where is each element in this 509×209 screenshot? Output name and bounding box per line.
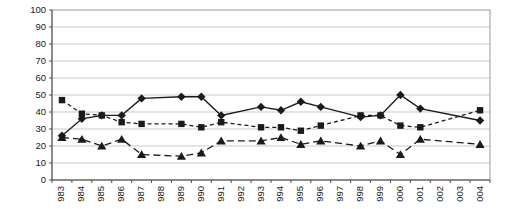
- x-axis-label: 998: [355, 186, 365, 202]
- square-marker: [99, 112, 105, 118]
- x-axis-label: 988: [156, 186, 166, 202]
- y-axis-label: 60: [6, 73, 46, 83]
- triangle-marker: [475, 140, 484, 148]
- y-axis-label: 50: [6, 90, 46, 100]
- x-axis-label: 994: [275, 186, 285, 202]
- square-marker: [278, 124, 284, 130]
- square-marker: [258, 124, 264, 130]
- square-marker: [377, 112, 383, 118]
- y-axis-label: 20: [6, 141, 46, 151]
- triangle-marker: [117, 135, 126, 143]
- triangle-marker: [376, 137, 385, 145]
- x-axis-label: 991: [216, 186, 226, 202]
- y-axis-label: 40: [6, 107, 46, 117]
- diamond-marker: [177, 93, 185, 101]
- y-axis-label: 100: [6, 5, 46, 15]
- square-marker: [79, 111, 85, 117]
- x-axis-label: 987: [136, 186, 146, 202]
- x-axis-label: 999: [375, 186, 385, 202]
- square-marker: [178, 121, 184, 127]
- plot-area: [0, 0, 509, 209]
- x-axis-label: 986: [116, 186, 126, 202]
- square-marker: [417, 124, 423, 130]
- square-marker: [118, 119, 124, 125]
- y-axis-label: 30: [6, 124, 46, 134]
- triangle-marker: [197, 149, 206, 157]
- x-axis-label: 992: [236, 186, 246, 202]
- x-axis-label: 990: [196, 186, 206, 202]
- y-axis-label: 10: [6, 158, 46, 168]
- triangle-marker: [316, 137, 325, 145]
- square-marker: [397, 122, 403, 128]
- x-axis-label: 996: [315, 186, 325, 202]
- x-axis-label: 004: [475, 186, 485, 202]
- x-axis-label: 997: [335, 186, 345, 202]
- square-marker: [477, 107, 483, 113]
- x-axis-label: 000: [395, 186, 405, 202]
- square-marker: [138, 121, 144, 127]
- triangle-marker: [276, 133, 285, 141]
- x-axis-label: 001: [415, 186, 425, 202]
- square-marker: [218, 119, 224, 125]
- square-marker: [357, 112, 363, 118]
- square-marker: [318, 122, 324, 128]
- square-marker: [59, 97, 65, 103]
- square-marker: [298, 128, 304, 134]
- diamond-marker: [317, 103, 325, 111]
- x-axis-label: 995: [295, 186, 305, 202]
- triangle-marker: [217, 137, 226, 145]
- x-axis-label: 002: [435, 186, 445, 202]
- x-axis-label: 984: [76, 186, 86, 202]
- x-axis-label: 983: [56, 186, 66, 202]
- x-axis-label: 985: [96, 186, 106, 202]
- y-axis-label: 0: [6, 175, 46, 185]
- x-axis-label: 993: [256, 186, 266, 202]
- diamond-marker: [297, 98, 305, 106]
- diamond-marker: [277, 106, 285, 114]
- x-axis-label: 989: [176, 186, 186, 202]
- diamond-marker: [476, 116, 484, 124]
- square-marker: [198, 124, 204, 130]
- y-axis-label: 80: [6, 39, 46, 49]
- diamond-marker: [257, 103, 265, 111]
- y-axis-label: 70: [6, 56, 46, 66]
- x-axis-label: 003: [455, 186, 465, 202]
- line-chart-figure: 0102030405060708090100 98398498598698798…: [0, 0, 509, 209]
- triangle-marker: [396, 150, 405, 158]
- y-axis-label: 90: [6, 22, 46, 32]
- triangle-marker: [416, 135, 425, 143]
